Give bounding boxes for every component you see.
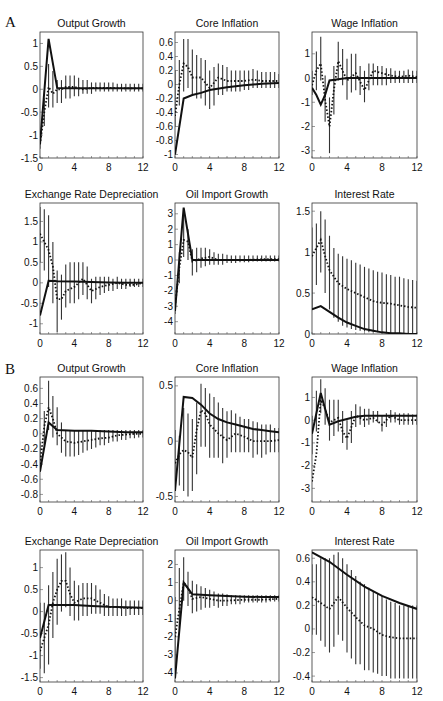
chart-a-wage-inflation: Wage Inflation04812-3-2-101 (301, 17, 423, 173)
chart-b-interest-rate: Interest Rate04812-0.4-0.200.20.40.6 (293, 535, 423, 697)
chart-a-output-growth: Output Growth04812-1.5-1-0.500.51 (21, 17, 149, 173)
x-tick-label: 12 (411, 338, 423, 349)
x-tick-label: 4 (207, 506, 213, 517)
y-tick-label: -1.5 (21, 672, 39, 683)
y-tick-label: -1 (301, 97, 310, 108)
chart-b-exchange-rate-depreciation: Exchange Rate Depreciation04812-1.5-1-0.… (21, 535, 159, 697)
chart-b-wage-inflation: Wage Inflation04812-3-2-101 (301, 362, 423, 517)
y-tick-label: -0.5 (156, 491, 174, 502)
y-tick-label: -1 (29, 318, 38, 329)
y-tick-label: 0.6 (159, 37, 173, 48)
y-tick-label: 0 (304, 329, 310, 340)
y-tick-label: 0.4 (159, 51, 173, 62)
y-tick-label: -3 (301, 483, 310, 494)
chart-title: Output Growth (57, 17, 125, 29)
y-tick-label: -3 (164, 301, 173, 312)
x-tick-label: 12 (411, 686, 423, 697)
y-tick-label: 1.5 (296, 206, 310, 217)
y-tick-label: 0.6 (24, 383, 38, 394)
y-tick-label: -4 (164, 667, 173, 678)
y-tick-label: 2 (167, 224, 173, 235)
x-tick-label: 4 (207, 338, 213, 349)
y-tick-label: -1 (301, 437, 310, 448)
chart-title: Exchange Rate Depreciation (25, 535, 159, 547)
y-tick-label: 1 (167, 239, 173, 250)
x-tick-label: 8 (379, 338, 385, 349)
x-tick-label: 12 (273, 686, 285, 697)
y-tick-label: -3 (301, 145, 310, 156)
x-tick-label: 8 (242, 686, 248, 697)
y-tick-label: -1 (164, 149, 173, 160)
y-tick-label: 0.5 (159, 380, 173, 391)
x-tick-label: 8 (106, 506, 112, 517)
chart-a-interest-rate: Interest Rate0481200.511.5 (296, 188, 423, 349)
y-tick-label: 0.5 (24, 584, 38, 595)
x-tick-label: 12 (137, 338, 149, 349)
chart-a-core-inflation: Core Inflation04812-1-0.8-0.6-0.4-0.200.… (156, 17, 285, 173)
y-tick-label: 0.5 (296, 288, 310, 299)
model-response-line (175, 208, 279, 311)
y-tick-label: 1.5 (24, 216, 38, 227)
plot-frame (40, 550, 143, 682)
x-tick-label: 8 (379, 506, 385, 517)
x-tick-label: 8 (242, 506, 248, 517)
y-tick-label: 0 (167, 255, 173, 266)
y-tick-label: 0 (304, 415, 310, 426)
x-tick-label: 4 (72, 686, 78, 697)
model-response-line (175, 83, 279, 154)
y-tick-label: -0.2 (21, 443, 39, 454)
y-tick-label: -0.5 (21, 107, 39, 118)
y-tick-label: 0 (32, 277, 38, 288)
model-response-line (175, 583, 279, 679)
chart-b-output-growth: Output Growth04812-0.8-0.6-0.4-0.200.20.… (21, 362, 149, 517)
y-tick-label: 0.2 (159, 65, 173, 76)
y-tick-label: -0.5 (21, 298, 39, 309)
y-tick-label: 2 (167, 559, 173, 570)
x-tick-label: 0 (37, 338, 43, 349)
chart-title: Wage Inflation (331, 362, 398, 374)
x-tick-label: 12 (137, 686, 149, 697)
chart-a-oil-import-growth: Oil Import Growth04812-4-3-2-10123 (164, 188, 285, 349)
y-tick-label: 1 (32, 38, 38, 49)
y-tick-label: 0.4 (296, 576, 310, 587)
x-tick-label: 12 (273, 162, 285, 173)
x-tick-label: 0 (37, 686, 43, 697)
chart-title: Wage Inflation (331, 17, 398, 29)
chart-title: Core Inflation (196, 17, 259, 29)
plot-frame (312, 377, 417, 502)
y-tick-label: 1 (304, 48, 310, 59)
y-tick-label: 0.5 (24, 61, 38, 72)
y-tick-label: 0 (32, 84, 38, 95)
x-tick-label: 8 (379, 686, 385, 697)
x-tick-label: 12 (411, 506, 423, 517)
y-tick-label: -0.5 (21, 628, 39, 639)
y-tick-label: -3 (164, 649, 173, 660)
y-tick-label: 1 (304, 392, 310, 403)
y-tick-label: -0.4 (21, 459, 39, 470)
x-tick-label: 8 (106, 686, 112, 697)
x-tick-label: 12 (273, 338, 285, 349)
y-tick-label: -1.5 (21, 153, 39, 164)
y-tick-label: 1 (32, 562, 38, 573)
y-tick-label: 3 (167, 208, 173, 219)
chart-b-core-inflation: Core Inflation04812-0.500.5 (156, 362, 285, 517)
x-tick-label: 8 (242, 338, 248, 349)
y-tick-label: 0 (32, 428, 38, 439)
chart-title: Interest Rate (334, 188, 394, 200)
y-tick-label: 0.5 (24, 257, 38, 268)
chart-title: Interest Rate (334, 535, 394, 547)
x-tick-label: 4 (72, 338, 78, 349)
plot-frame (175, 550, 279, 682)
y-tick-label: -0.6 (21, 474, 39, 485)
x-tick-label: 0 (309, 338, 315, 349)
y-tick-label: -1 (29, 130, 38, 141)
y-tick-label: 0 (167, 79, 173, 90)
y-tick-label: -2 (301, 121, 310, 132)
y-tick-label: 0.4 (24, 398, 38, 409)
y-tick-label: -1 (164, 613, 173, 624)
x-tick-label: 8 (242, 162, 248, 173)
y-tick-label: -2 (164, 631, 173, 642)
plot-frame (175, 203, 279, 334)
charts-canvas: Output Growth04812-1.5-1-0.500.51Core In… (0, 0, 443, 701)
x-tick-label: 8 (379, 162, 385, 173)
